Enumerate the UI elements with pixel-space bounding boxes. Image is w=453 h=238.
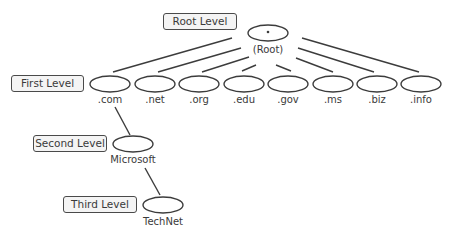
third-level-node [143,197,183,213]
edge-line [276,65,291,71]
edge-line [158,48,241,72]
edge-line [113,38,232,72]
second-level-label: Second Level [33,135,107,152]
first-level-node-label: .gov [277,94,299,106]
first-level-node-label: .org [189,94,209,106]
first-level-node-label: .info [410,94,432,106]
first-level-node [90,76,130,92]
edge-line [298,48,374,72]
root-node-label: (Root) [253,44,283,56]
second-level-node-label: Microsoft [110,154,156,166]
edge-line [242,65,256,71]
first-level-node [224,76,264,92]
first-level-node-label: .edu [233,94,255,106]
first-level-node [313,76,353,92]
root-dot-icon [267,31,270,34]
first-level-label: First Level [11,75,84,92]
first-level-node-label: .com [98,94,123,106]
third-level-node-label: TechNet [143,216,183,228]
root-level-label: Root Level [163,13,237,30]
first-level-node-label: .biz [368,94,386,106]
first-level-node [401,76,441,92]
first-level-node [268,76,308,92]
first-level-node [135,76,175,92]
third-level-label: Third Level [63,196,137,213]
first-level-node-label: .net [145,94,165,106]
edge-line [145,168,160,195]
first-level-node-label: .ms [324,94,342,106]
first-level-node [179,76,219,92]
edge-line [115,107,130,135]
edge-line [202,57,249,72]
edge-line [296,58,333,72]
first-level-node [357,76,397,92]
second-level-node [113,136,153,152]
